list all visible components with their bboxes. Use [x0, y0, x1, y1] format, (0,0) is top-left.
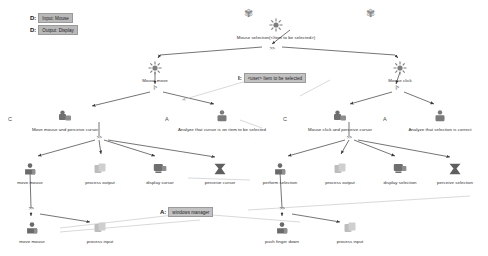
- operator-sequence-move-mouse: >>: [29, 205, 34, 211]
- node-badge: C: [283, 111, 287, 127]
- operator-sequence-click-cursor: >>: [347, 134, 352, 140]
- annotation-item-to-be-selected: I: <user> Item to be selected: [238, 73, 306, 83]
- node-perceive-selection[interactable]: perceive selection: [390, 163, 488, 186]
- legend-value: Output: Display: [38, 25, 77, 35]
- node-analyze-selection-correct[interactable]: AAnalyze that selection is correct: [345, 110, 488, 133]
- node-label: process input: [285, 239, 415, 245]
- node-badge: A: [383, 111, 387, 127]
- legend-value: Input: Mouse: [38, 13, 73, 23]
- legend-key: D:: [30, 27, 36, 33]
- node-badge: A: [165, 111, 169, 127]
- node-label: perceive selection: [390, 180, 488, 186]
- legend-input-mouse: D: Input: Mouse: [30, 13, 73, 23]
- node-badge: C: [8, 111, 12, 127]
- annotation-windows-manager: A: windows manager: [160, 207, 213, 217]
- node-mouse-click[interactable]: Mouse click: [335, 61, 465, 84]
- diagram-canvas: D: Input: Mouse D: Output: Display I: <u…: [0, 0, 488, 256]
- operator-sequence-push-finger: >>: [280, 205, 285, 211]
- node-process-input-1[interactable]: process input: [35, 222, 165, 245]
- annotation-value: <user> Item to be selected: [244, 73, 306, 83]
- node-process-input-2[interactable]: process input: [285, 222, 415, 245]
- perceive-icon: [390, 163, 488, 179]
- annotation-key: I:: [238, 75, 242, 81]
- operator-sequence-move-cursor: >>: [97, 134, 102, 140]
- node-label: process input: [35, 239, 165, 245]
- node-label: Analyze that selection is correct: [345, 127, 488, 133]
- node-mouse-move[interactable]: Mouse move: [90, 61, 220, 84]
- operator-order-independence-click: |>: [395, 84, 398, 90]
- node-mouse-selection[interactable]: Mouse selection(<Item to be selected>): [181, 18, 371, 41]
- abstract-icon: [335, 61, 465, 77]
- abstract-icon: [90, 61, 220, 77]
- operator-sequence-root: >>: [270, 45, 275, 51]
- legend-key: D:: [30, 15, 36, 21]
- annotation-key: A:: [160, 209, 166, 215]
- cognitive-icon: A: [345, 110, 488, 126]
- system-icon: [35, 222, 165, 238]
- legend-output-display: D: Output: Display: [30, 25, 78, 35]
- annotation-value: windows manager: [168, 207, 213, 217]
- system-icon: [285, 222, 415, 238]
- abstract-icon: [181, 18, 371, 34]
- operator-order-independence-move: |>: [153, 84, 156, 90]
